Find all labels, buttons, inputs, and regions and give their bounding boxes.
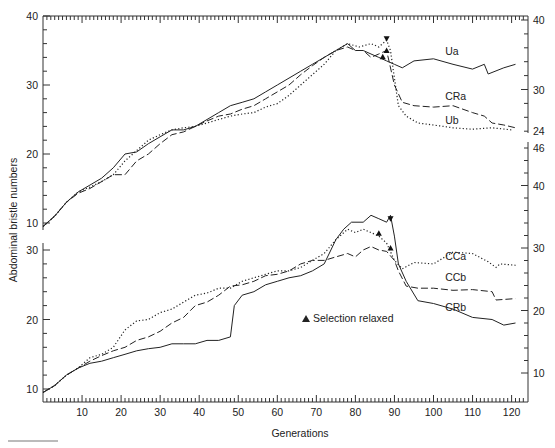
x-tick-label: 70 bbox=[311, 406, 323, 418]
left-tick-label: 10 bbox=[26, 217, 38, 229]
x-tick-label: 110 bbox=[464, 406, 481, 418]
right-tick-label: 20 bbox=[533, 305, 545, 317]
y-axis-label: Abdominal bristle numbers bbox=[7, 158, 19, 282]
x-tick-label: 80 bbox=[350, 406, 362, 418]
left-tick-label: 40 bbox=[26, 10, 38, 22]
left-tick-label: 30 bbox=[26, 79, 38, 91]
label-ccb: CCb bbox=[445, 271, 466, 283]
x-tick-label: 100 bbox=[425, 406, 443, 418]
label-ua: Ua bbox=[445, 45, 459, 57]
series-ub bbox=[43, 40, 512, 226]
figure-caption bbox=[8, 440, 58, 442]
triangle-up-icon bbox=[384, 48, 390, 54]
series-labels: UaCRaUbCCaCCbCRb bbox=[445, 45, 466, 313]
x-axis-label: Generations bbox=[271, 427, 328, 439]
label-cra: CRa bbox=[445, 90, 466, 102]
x-tick-label: 50 bbox=[232, 406, 244, 418]
triangle-up-icon bbox=[376, 230, 382, 236]
right-tick-label: 46 bbox=[533, 142, 545, 154]
right-tick-label: 40 bbox=[533, 180, 545, 192]
series-ccb bbox=[43, 247, 516, 393]
triangle-up-icon bbox=[302, 315, 310, 322]
right-tick-label: 24 bbox=[533, 125, 545, 137]
x-tick-label: 90 bbox=[389, 406, 401, 418]
x-tick-label: 40 bbox=[193, 406, 205, 418]
right-tick-label: 10 bbox=[533, 367, 545, 379]
x-tick-label: 30 bbox=[154, 406, 166, 418]
right-tick-label: 40 bbox=[533, 14, 545, 26]
right-tick-label: 30 bbox=[533, 84, 545, 96]
left-tick-label: 20 bbox=[26, 148, 38, 160]
left-tick-label: 20 bbox=[26, 314, 38, 326]
x-tick-label: 60 bbox=[271, 406, 283, 418]
label-ub: Ub bbox=[445, 114, 459, 126]
right-tick-label: 30 bbox=[533, 242, 545, 254]
x-tick-label: 10 bbox=[76, 406, 88, 418]
left-tick-label: 30 bbox=[26, 244, 38, 256]
legend-label: Selection relaxed bbox=[313, 312, 394, 324]
legend: Selection relaxed bbox=[302, 312, 394, 324]
series-cra bbox=[43, 47, 516, 227]
label-cca: CCa bbox=[445, 250, 466, 262]
series-ua bbox=[43, 44, 516, 227]
left-tick-label: 10 bbox=[26, 383, 38, 395]
bristle-selection-chart: 1020304050607080901001101201020304024304… bbox=[0, 0, 555, 448]
triangle-up-icon bbox=[388, 245, 394, 251]
triangle-up-icon bbox=[380, 54, 386, 60]
x-tick-label: 20 bbox=[115, 406, 127, 418]
x-tick-label: 120 bbox=[503, 406, 521, 418]
tick-labels: 1020304050607080901001101201020304024304… bbox=[26, 10, 545, 418]
label-crb: CRb bbox=[445, 301, 466, 313]
triangle-down-icon bbox=[384, 36, 390, 42]
